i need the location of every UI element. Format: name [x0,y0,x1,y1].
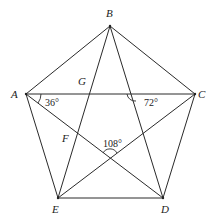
diagonal-BD [110,26,163,198]
label-E: E [51,203,59,215]
diagonal-AD [26,94,163,198]
angle-label-36: 36° [45,97,59,108]
label-F: F [61,132,69,144]
diagonal-CE [58,94,195,198]
vertex-D [162,197,164,199]
label-G: G [78,75,86,87]
side-EA [26,94,58,198]
vertex-B [109,25,111,27]
angle-label-72: 72° [144,97,158,108]
side-CD [163,94,195,198]
label-C: C [198,88,206,100]
side-BC [110,26,195,94]
pentagon-diagram: B A C E D G F 36° 72° 108° [0,0,214,223]
angle-arc-108 [103,149,117,153]
diagram-svg: B A C E D G F 36° 72° 108° [0,0,214,223]
label-D: D [160,203,169,215]
vertex-E [57,197,59,199]
label-B: B [106,7,113,19]
angle-arc-36 [38,94,41,103]
vertex-C [194,93,196,95]
vertex-A [25,93,27,95]
diagonal-BE [58,26,110,198]
side-AB [26,26,110,94]
label-A: A [10,88,18,100]
angle-label-108: 108° [103,138,122,149]
